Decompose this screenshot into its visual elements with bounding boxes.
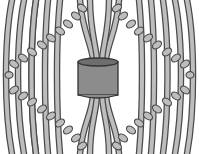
macrame-drawing: .cord{fill:none;stroke:#4a4a4a;stroke-wi… <box>0 0 199 154</box>
bead <box>78 58 118 98</box>
macrame-illustration: .cord{fill:none;stroke:#4a4a4a;stroke-wi… <box>0 0 199 154</box>
cords-right <box>139 0 193 154</box>
cords-left <box>6 0 60 154</box>
